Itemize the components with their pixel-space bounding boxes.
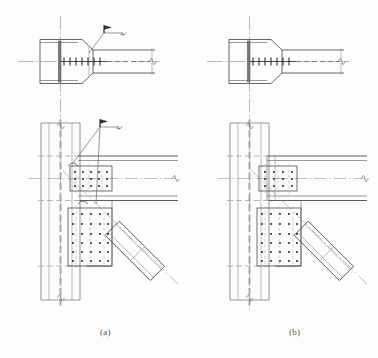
drawing-canvas xyxy=(0,0,378,358)
sheet-background xyxy=(0,0,378,358)
figure-caption-a: (a) xyxy=(100,327,111,337)
drawing-sheet xyxy=(0,0,378,358)
figure-caption-b: (b) xyxy=(289,327,300,337)
